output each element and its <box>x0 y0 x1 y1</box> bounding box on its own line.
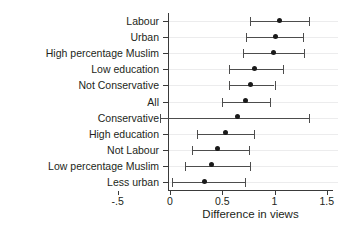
ci-lower-cap <box>229 65 230 74</box>
y-axis-label: Conservative <box>0 110 159 126</box>
ci-upper-cap <box>270 98 271 107</box>
estimate-point-marker <box>252 66 257 71</box>
plot-row: Conservative <box>0 110 350 126</box>
plot-row: High education <box>0 126 350 142</box>
ci-lower-cap <box>160 114 161 123</box>
plot-row: Not Labour <box>0 142 350 158</box>
y-axis-label: Not Conservative <box>0 77 159 93</box>
ci-upper-cap <box>249 146 250 155</box>
plot-row: All <box>0 94 350 110</box>
y-axis-tick <box>163 53 168 54</box>
y-axis-label: High education <box>0 126 159 142</box>
estimate-point-marker <box>248 82 253 87</box>
x-axis-tick-label: 1 <box>255 195 295 207</box>
ci-upper-cap <box>309 114 310 123</box>
confidence-interval-line <box>160 118 309 119</box>
x-axis-tick-label: 0.5 <box>202 195 242 207</box>
ci-lower-cap <box>222 98 223 107</box>
y-axis-tick <box>163 134 168 135</box>
plot-row: High percentage Muslim <box>0 45 350 61</box>
y-axis-tick <box>163 182 168 183</box>
estimate-point-marker <box>243 98 248 103</box>
y-axis-tick <box>163 85 168 86</box>
plot-row: Urban <box>0 29 350 45</box>
confidence-interval-line <box>192 150 249 151</box>
ci-lower-cap <box>229 81 230 90</box>
ci-upper-cap <box>303 33 304 42</box>
x-axis-tick-label: -.5 <box>98 195 138 207</box>
ci-upper-cap <box>309 17 310 26</box>
y-axis-label: Low education <box>0 61 159 77</box>
plot-row: Labour <box>0 13 350 29</box>
y-axis-label: All <box>0 94 159 110</box>
estimate-point-marker <box>273 34 278 39</box>
x-axis-tick-label: 0 <box>150 195 190 207</box>
ci-upper-cap <box>254 130 255 139</box>
y-axis-label: High percentage Muslim <box>0 45 159 61</box>
plot-row: Low percentage Muslim <box>0 158 350 174</box>
y-axis-label: Not Labour <box>0 142 159 158</box>
ci-upper-cap <box>283 65 284 74</box>
y-axis-label: Labour <box>0 13 159 29</box>
ci-lower-cap <box>250 17 251 26</box>
estimate-point-marker <box>215 146 220 151</box>
ci-upper-cap <box>275 81 276 90</box>
y-axis-tick <box>163 21 168 22</box>
plot-row: Less urban <box>0 174 350 190</box>
estimate-point-marker <box>202 179 207 184</box>
forest-plot-chart: LabourUrbanHigh percentage MuslimLow edu… <box>0 0 350 227</box>
x-axis-title: Difference in views <box>168 208 333 220</box>
ci-upper-cap <box>245 178 246 187</box>
plot-row: Low education <box>0 61 350 77</box>
ci-upper-cap <box>304 49 305 58</box>
estimate-point-marker <box>271 50 276 55</box>
y-axis-tick <box>163 69 168 70</box>
x-axis-line <box>168 190 333 191</box>
y-axis-tick <box>163 102 168 103</box>
ci-lower-cap <box>246 33 247 42</box>
y-axis-tick <box>163 37 168 38</box>
ci-lower-cap <box>192 146 193 155</box>
y-axis-label: Less urban <box>0 174 159 190</box>
ci-lower-cap <box>197 130 198 139</box>
y-axis-label: Urban <box>0 29 159 45</box>
ci-upper-cap <box>250 162 251 171</box>
y-axis-label: Low percentage Muslim <box>0 158 159 174</box>
ci-lower-cap <box>172 178 173 187</box>
confidence-interval-line <box>172 182 245 183</box>
plot-row: Not Conservative <box>0 77 350 93</box>
x-axis-tick-label: 1.5 <box>307 195 347 207</box>
estimate-point-marker <box>277 18 282 23</box>
y-axis-tick <box>163 150 168 151</box>
y-axis-tick <box>163 166 168 167</box>
ci-lower-cap <box>185 162 186 171</box>
ci-lower-cap <box>243 49 244 58</box>
confidence-interval-line <box>185 166 251 167</box>
